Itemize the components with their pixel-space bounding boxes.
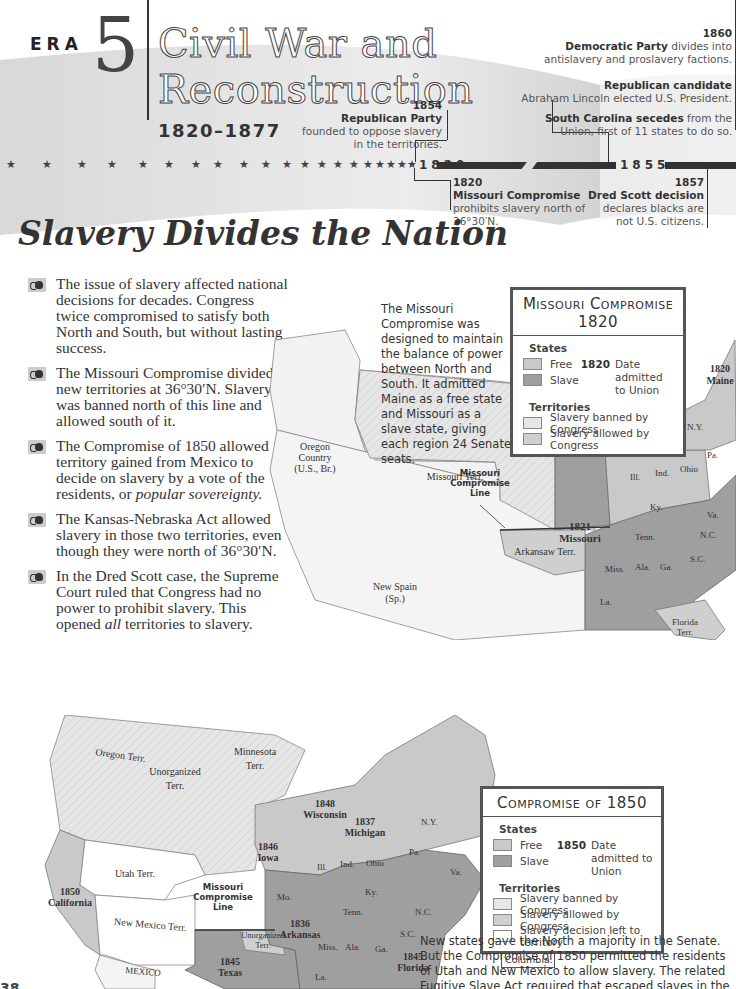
star-icon: ★ (386, 158, 396, 171)
swatch-slave (523, 374, 542, 386)
liberty-bell-icon (28, 513, 46, 527)
legend-allowed: Slavery allowed by Congress (550, 427, 675, 451)
label-state: S.C. (400, 929, 416, 939)
connector-1820-v2 (450, 180, 451, 210)
star-icon: ★ (397, 158, 407, 171)
star-icon: ★ (213, 158, 223, 171)
event-text: founded to oppose slavery (250, 125, 442, 138)
era-banner: ERA 5 Civil War and Reconstruction 1820–… (0, 0, 736, 235)
event-secession: South Carolina secedes from the Union, f… (500, 112, 732, 138)
legend-free: Free (550, 358, 572, 370)
swatch-allowed (523, 433, 542, 445)
label-state: Pa. (707, 450, 718, 460)
legend-title-line1: Missouri Compromise (517, 295, 679, 313)
legend-title: Missouri Compromise 1820 (513, 290, 683, 336)
swatch-free (493, 839, 512, 851)
label-iowa: 1846Iowa (257, 841, 278, 863)
era-title-line1: Civil War and (158, 20, 474, 66)
label-utah-terr: Utah Terr. (115, 868, 155, 879)
era-divider (147, 0, 149, 120)
label-state: Ill. (630, 472, 640, 482)
event-headline: Democratic Party (565, 40, 668, 52)
legend-states-label: States (499, 823, 653, 835)
bullet-item: The Missouri Compromise divided new terr… (28, 365, 288, 429)
event-headline: South Carolina secedes (545, 112, 684, 124)
star-icon: ★ (42, 158, 52, 171)
connector-1820-h (414, 180, 450, 181)
bullet-text: The Kansas-Nebraska Act allowed slavery … (56, 510, 282, 559)
bullet-item: The Compromise of 1850 allowed territory… (28, 438, 288, 502)
label-state: N.Y. (687, 422, 703, 432)
event-text: from the (684, 112, 732, 124)
connector-1820 (414, 168, 415, 180)
bullet-text: The Missouri Compromise divided new terr… (56, 364, 273, 429)
label-state: Ky. (365, 887, 378, 897)
swatch-banned (493, 898, 512, 910)
label-state: Ohio (680, 464, 699, 474)
bullet-list: The issue of slavery affected national d… (28, 276, 288, 641)
swatch-banned (523, 417, 542, 429)
label-state: Mo. (277, 892, 292, 902)
label-state: Ill. (317, 862, 327, 872)
label-state: Va. (707, 510, 719, 520)
label-state: Ala. (345, 942, 360, 952)
star-icon: ★ (349, 158, 359, 171)
bullet-text: territories to slavery. (121, 615, 253, 632)
label-compromise-line: MissouriCompromiseLine (193, 882, 253, 912)
label-state: Ind. (655, 468, 669, 478)
label-state: Ky. (650, 502, 663, 512)
legend-1820: Missouri Compromise 1820 States Free Sla… (510, 287, 686, 457)
event-text: not U.S. citizens. (560, 215, 704, 228)
liberty-bell-icon (28, 367, 46, 381)
bullet-text: The issue of slavery affected national d… (56, 275, 288, 356)
label-state: N.Y. (421, 817, 437, 827)
timeline-bar-3 (665, 162, 736, 169)
swatch-free (523, 358, 542, 370)
event-1860: 1860 Democratic Party divides into antis… (520, 27, 732, 66)
event-headline: Republican candidate (500, 79, 732, 92)
label-state: Miss. (318, 942, 338, 952)
label-state: Ohio (366, 858, 385, 868)
bullet-emphasis: popular sovereignty. (136, 485, 263, 502)
event-headline: Republican Party (250, 112, 442, 125)
star-icon: ★ (375, 158, 385, 171)
label-state: Ga. (660, 562, 673, 572)
caption-compromise-1850: New states gave the North a majority in … (420, 934, 736, 989)
swatch-slave (493, 855, 512, 867)
connector-1857 (707, 168, 708, 228)
event-text: antislavery and proslavery factions. (520, 53, 732, 66)
event-text: in the territories. (250, 138, 442, 151)
star-icon: ★ (261, 158, 271, 171)
event-text: Union, first of 11 states to do so. (500, 125, 732, 138)
label-state: Ind. (340, 859, 354, 869)
star-icon: ★ (138, 158, 148, 171)
bullet-item: In the Dred Scott case, the Supreme Cour… (28, 568, 288, 632)
star-icon: ★ (191, 158, 201, 171)
star-icon: ★ (77, 158, 87, 171)
label-arkansaw-terr: Arkansaw Terr. (514, 546, 575, 557)
event-lincoln: Republican candidate Abraham Lincoln ele… (500, 79, 732, 105)
legend-date-sample: 1850 (557, 839, 586, 878)
legend-states-label: States (529, 342, 675, 354)
label-state: Ala. (635, 562, 650, 572)
section-title: Slavery Divides the Nation (18, 214, 508, 253)
star-icon: ★ (164, 158, 174, 171)
event-text: divides into (668, 40, 732, 52)
label-state: La. (315, 972, 327, 982)
timeline-bar-1 (437, 162, 527, 169)
legend-slave: Slave (520, 855, 549, 867)
label-state: N.C. (415, 907, 432, 917)
page-number: 38 (0, 980, 19, 989)
label-state: Tenn. (343, 907, 363, 917)
event-headline: Dred Scott decision (560, 189, 704, 202)
bullet-emphasis: all (105, 615, 121, 632)
legend-slave: Slave (550, 374, 579, 386)
star-icon: ★ (317, 158, 327, 171)
era-number: 5 (92, 8, 139, 82)
connector-1854-v2 (447, 110, 448, 140)
event-text: Abraham Lincoln elected U.S. President. (500, 92, 732, 105)
star-icon: ★ (6, 158, 16, 171)
star-icon: ★ (363, 158, 373, 171)
star-icon: ★ (300, 158, 310, 171)
label-state: Ga. (375, 944, 388, 954)
